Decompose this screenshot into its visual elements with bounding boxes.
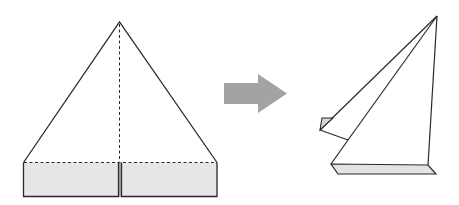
origami-diagram (0, 0, 459, 205)
transform-arrow-icon (224, 74, 287, 113)
diagram-svg (0, 0, 459, 205)
triangle-outline (24, 22, 218, 163)
outer-flap-edge (320, 16, 437, 130)
inner-fold-line (348, 16, 437, 140)
flap-bottom-edge (320, 130, 348, 140)
tip-flap-shaded (320, 118, 333, 130)
arrow-right-icon (224, 74, 287, 113)
before-figure (24, 22, 218, 197)
band-left-shaded (24, 163, 119, 197)
band-center-gap (119, 163, 121, 197)
sail-right-edge (428, 16, 437, 165)
base-band-shaded (331, 164, 436, 174)
main-sail-outline (331, 140, 348, 164)
band-right-shaded (122, 163, 218, 197)
after-figure (320, 16, 437, 174)
